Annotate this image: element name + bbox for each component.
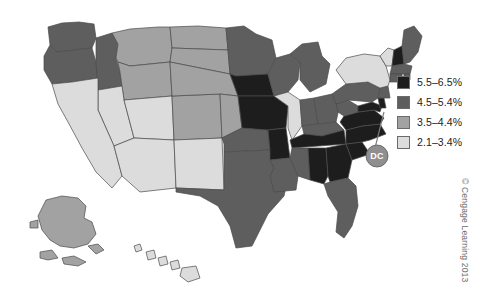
legend-item-1[interactable]: 4.5–5.4% xyxy=(397,92,489,112)
legend-swatch-1 xyxy=(397,96,410,109)
state-AL[interactable] xyxy=(308,148,328,184)
state-MT[interactable] xyxy=(112,27,172,66)
map-states xyxy=(30,22,422,282)
legend-label-0: 5.5–6.5% xyxy=(417,76,462,88)
legend-label-2: 3.5–4.4% xyxy=(417,116,462,128)
dc-callout-circle[interactable] xyxy=(366,145,388,167)
state-OR[interactable] xyxy=(44,45,98,84)
state-FL[interactable] xyxy=(324,178,358,238)
state-NM[interactable] xyxy=(174,138,224,190)
state-MN[interactable] xyxy=(226,26,276,76)
legend-label-1: 4.5–5.4% xyxy=(417,96,462,108)
state-PA[interactable] xyxy=(332,82,380,104)
legend-swatch-3 xyxy=(397,136,410,149)
state-MD[interactable] xyxy=(358,102,382,112)
legend-item-0[interactable]: 5.5–6.5% xyxy=(397,72,489,92)
state-CO[interactable] xyxy=(172,94,222,140)
state-WA[interactable] xyxy=(48,22,96,52)
state-AK[interactable] xyxy=(30,196,104,266)
choropleth-figure: DC 5.5–6.5% 4.5–5.4% 3.5–4.4% 2.1–3.4% ©… xyxy=(0,0,495,297)
legend-label-3: 2.1–3.4% xyxy=(417,136,462,148)
state-MO[interactable] xyxy=(238,96,288,130)
legend-swatch-0 xyxy=(397,76,410,89)
legend-item-2[interactable]: 3.5–4.4% xyxy=(397,112,489,132)
state-AR[interactable] xyxy=(268,128,290,160)
state-AZ[interactable] xyxy=(114,138,176,192)
state-ND[interactable] xyxy=(170,26,228,50)
state-ME[interactable] xyxy=(402,26,422,64)
copyright-credit: © Cengage Learning 2013 xyxy=(460,178,470,282)
legend-item-3[interactable]: 2.1–3.4% xyxy=(397,132,489,152)
legend-swatch-2 xyxy=(397,116,410,129)
map-legend: 5.5–6.5% 4.5–5.4% 3.5–4.4% 2.1–3.4% xyxy=(397,72,489,152)
state-HI[interactable] xyxy=(134,244,200,282)
state-WY[interactable] xyxy=(118,62,172,100)
state-IA[interactable] xyxy=(230,74,274,96)
